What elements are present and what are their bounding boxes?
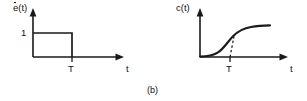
left-y-axis-label-overbar-base: e (13, 3, 18, 13)
right-plot-canvas (160, 0, 307, 101)
left-x-axis-arrow (116, 54, 125, 61)
pulse-waveform (33, 33, 72, 57)
right-x-axis-label: t (290, 64, 293, 74)
response-curve (200, 25, 270, 56)
figure-container: e(t) 1 T t c(t) T t (b) (0, 0, 307, 101)
figure-caption: (b) (147, 86, 158, 95)
left-x-tick-label-T: T (68, 64, 74, 74)
right-y-axis-arrow (197, 8, 204, 17)
left-y-axis-label: e(t) (13, 3, 27, 13)
right-x-tick-label-T: T (226, 64, 232, 74)
left-x-axis-label: t (126, 64, 129, 74)
right-x-axis-arrow (280, 54, 289, 61)
right-y-axis-label: c(t) (176, 3, 190, 13)
left-y-axis-label-rest: (t) (18, 2, 27, 13)
left-plot-canvas (0, 0, 160, 101)
left-y-tick-label-one: 1 (21, 28, 26, 38)
left-y-axis-arrow (30, 8, 37, 17)
